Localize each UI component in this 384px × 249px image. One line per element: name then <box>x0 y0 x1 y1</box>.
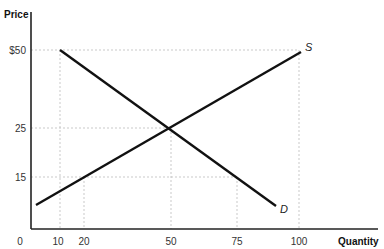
x-tick-0: 0 <box>17 236 23 247</box>
y-tick-50: $50 <box>9 45 26 56</box>
x-axis-title: Quantity <box>338 236 379 247</box>
x-tick-10: 10 <box>52 236 64 247</box>
supply-label: S <box>305 41 313 53</box>
supply-curve <box>36 52 301 205</box>
y-tick-25: 25 <box>15 123 27 134</box>
demand-label: D <box>280 203 288 215</box>
x-tick-20: 20 <box>78 236 90 247</box>
x-tick-75: 75 <box>231 236 243 247</box>
supply-demand-chart: S D Price Quantity $50 25 15 0 10 20 50 … <box>0 0 384 249</box>
y-tick-15: 15 <box>15 172 27 183</box>
x-tick-100: 100 <box>291 236 308 247</box>
y-axis-title: Price <box>4 9 29 20</box>
x-tick-50: 50 <box>165 236 177 247</box>
